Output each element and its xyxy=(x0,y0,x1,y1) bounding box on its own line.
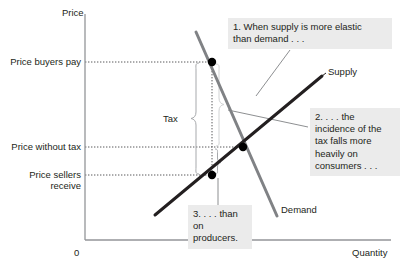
point-price-sellers-receive xyxy=(208,171,216,179)
supply-curve-label: Supply xyxy=(328,66,357,77)
callout-3: 3. . . . than on producers. xyxy=(188,205,252,249)
price-without-tax-label: Price without tax xyxy=(0,141,81,153)
callout-3-line-2: on producers. xyxy=(193,220,247,244)
tax-bracket-label: Tax xyxy=(163,113,178,125)
origin-label: 0 xyxy=(74,247,79,259)
callout-3-line-1: 3. . . . than xyxy=(193,208,247,220)
point-price-without-tax xyxy=(239,143,247,151)
callout-1: 1. When supply is more elastic than dema… xyxy=(228,18,392,49)
callout-1-line-1: 1. When supply is more elastic xyxy=(233,21,387,33)
callout-2-line-2: incidence of the xyxy=(315,123,395,135)
callout-2-line-5: consumers . . . xyxy=(315,160,395,172)
callout-2-line-4: heavily on xyxy=(315,148,395,160)
callout-1-line-2: than demand . . . xyxy=(233,33,387,45)
price-sellers-receive-label-line1: Price sellers xyxy=(0,169,81,181)
demand-curve-label: Demand xyxy=(281,204,317,215)
tax-incidence-figure: Price Quantity 0 Price buyers pay Price … xyxy=(0,0,408,271)
y-axis-label: Price xyxy=(62,7,84,19)
price-buyers-pay-label: Price buyers pay xyxy=(0,56,81,68)
point-price-buyers-pay xyxy=(208,58,216,66)
price-sellers-receive-label-line2: receive xyxy=(0,180,81,192)
callout-2-line-1: 2. . . . the xyxy=(315,111,395,123)
callout-2-line-3: tax falls more xyxy=(315,135,395,147)
x-axis-label: Quantity xyxy=(352,247,387,259)
callout-2: 2. . . . the incidence of the tax falls … xyxy=(310,108,400,176)
